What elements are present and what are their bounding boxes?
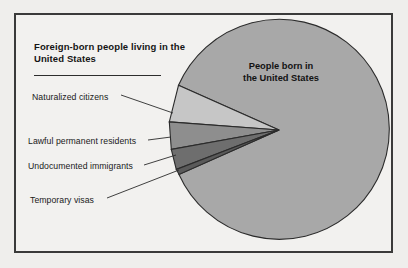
callout-label-undocumented-immigrants: Undocumented immigrants — [28, 161, 133, 171]
legend-heading-rule — [34, 75, 161, 76]
leader-line-naturalized-citizens — [121, 95, 173, 113]
callout-label-naturalized-citizens: Naturalized citizens — [32, 92, 108, 102]
pie-chart-figure: Foreign-born people living in the United… — [0, 0, 408, 268]
leader-line-temporary-visas — [107, 170, 179, 198]
pie-slice-label-line-2: the United States — [218, 72, 344, 84]
callout-label-lawful-permanent-residents: Lawful permanent residents — [28, 136, 136, 146]
callout-label-temporary-visas: Temporary visas — [30, 195, 94, 205]
pie-slice-label-native-born: People born in the United States — [218, 60, 344, 84]
pie-slice-label-line-1: People born in — [218, 60, 344, 72]
legend-heading: Foreign-born people living in the United… — [34, 41, 194, 65]
leader-line-lawful-permanent-residents — [148, 137, 171, 140]
leader-line-undocumented-immigrants — [144, 155, 176, 165]
legend-heading-line-1: Foreign-born people — [34, 41, 128, 52]
